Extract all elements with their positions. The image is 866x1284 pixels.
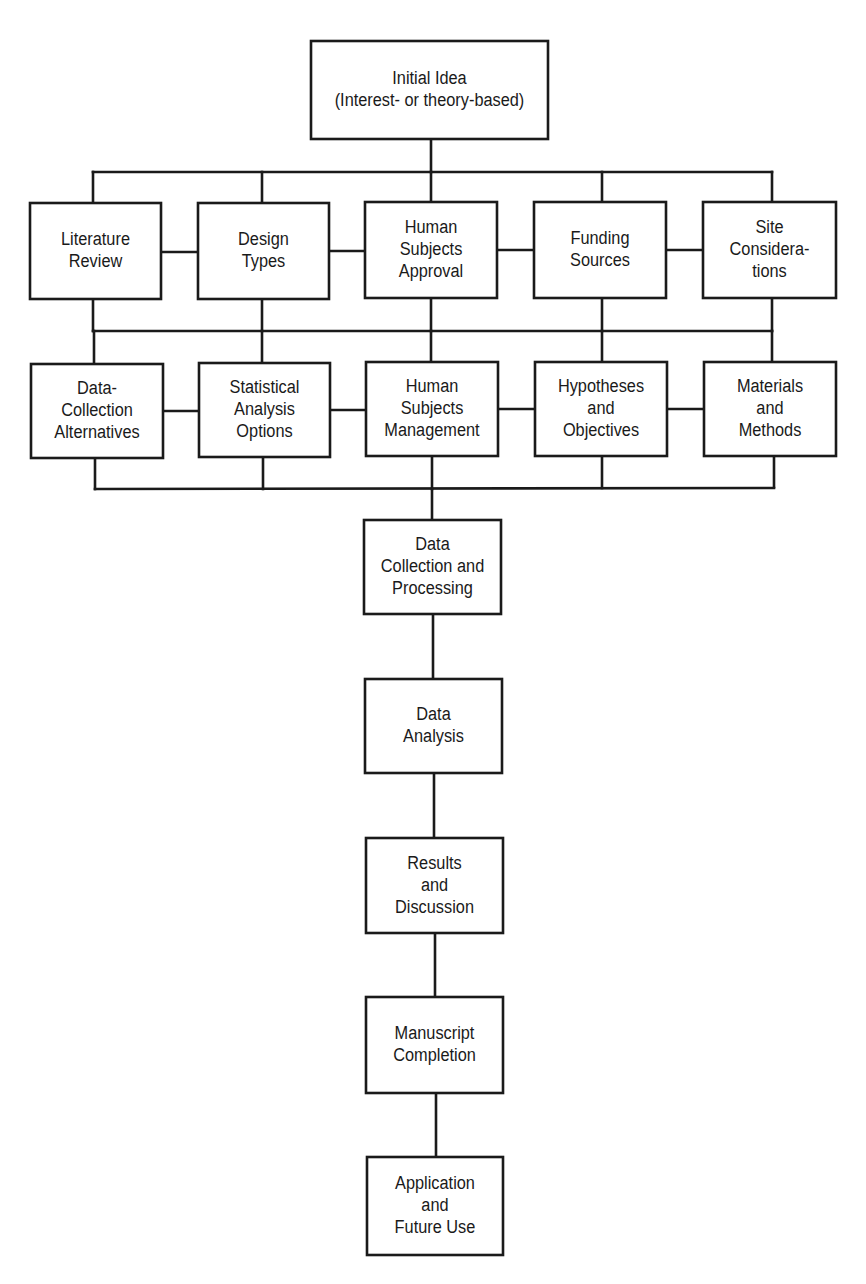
node-design-types: DesignTypes	[198, 203, 329, 299]
node-label-line: and	[587, 397, 614, 418]
node-label-line: Subjects	[400, 238, 463, 259]
node-label-line: Literature	[61, 228, 130, 249]
node-label-line: Considera-	[730, 238, 810, 259]
node-label-line: Hypotheses	[558, 375, 644, 396]
node-data-collection-alternatives: Data-CollectionAlternatives	[31, 364, 163, 458]
node-label-line: Manuscript	[395, 1022, 475, 1043]
node-data-collection-and-processing: DataCollection andProcessing	[364, 520, 501, 614]
node-label-line: Processing	[392, 577, 473, 598]
connector-bus-bottom	[95, 488, 774, 489]
node-label-line: Approval	[399, 260, 463, 281]
node-label-line: Subjects	[401, 397, 464, 418]
node-application-and-future-use: ApplicationandFuture Use	[367, 1157, 503, 1255]
node-label-line: Collection and	[381, 555, 484, 576]
node-label-line: and	[421, 874, 448, 895]
research-process-flowchart: Initial Idea(Interest- or theory-based)L…	[0, 0, 866, 1284]
node-label-line: Results	[407, 852, 462, 873]
node-label-line: Data-	[77, 377, 117, 398]
node-label-line: Initial Idea	[392, 67, 467, 88]
node-label-line: Methods	[739, 419, 802, 440]
node-label-line: Options	[236, 420, 292, 441]
node-materials-and-methods: MaterialsandMethods	[704, 362, 836, 456]
node-human-subjects-approval: HumanSubjectsApproval	[365, 202, 497, 298]
node-label-line: Data	[415, 533, 450, 554]
node-label-line: Collection	[61, 399, 133, 420]
node-label-line: Discussion	[395, 896, 474, 917]
node-literature-review: LiteratureReview	[30, 203, 161, 299]
node-human-subjects-management: HumanSubjectsManagement	[366, 362, 498, 456]
node-label-line: Human	[406, 375, 459, 396]
node-label-line: Types	[242, 250, 286, 271]
node-label-line: Analysis	[234, 398, 295, 419]
node-results-and-discussion: ResultsandDiscussion	[366, 838, 503, 933]
node-label-line: tions	[752, 260, 787, 281]
node-label-line: and	[756, 397, 783, 418]
node-label-line: Completion	[393, 1044, 476, 1065]
node-label-line: Funding	[570, 227, 629, 248]
node-label-line: Site	[755, 216, 783, 237]
node-statistical-analysis-options: StatisticalAnalysisOptions	[199, 363, 330, 457]
node-label-line: and	[421, 1194, 448, 1215]
node-label-line: Analysis	[403, 725, 464, 746]
node-funding-sources: FundingSources	[534, 202, 666, 298]
node-label-line: Management	[384, 419, 479, 440]
node-label-line: Sources	[570, 249, 630, 270]
node-label-line: Objectives	[563, 419, 639, 440]
node-label-line: Data	[416, 703, 451, 724]
node-data-analysis: DataAnalysis	[365, 679, 502, 773]
node-label-line: Statistical	[230, 376, 300, 397]
node-initial-idea: Initial Idea(Interest- or theory-based)	[311, 41, 548, 139]
node-label-line: Alternatives	[54, 421, 139, 442]
node-label-line: Design	[238, 228, 289, 249]
node-label-line: (Interest- or theory-based)	[335, 89, 525, 110]
node-hypotheses-and-objectives: HypothesesandObjectives	[535, 362, 667, 456]
node-label-line: Future Use	[395, 1216, 476, 1237]
node-label-line: Materials	[737, 375, 803, 396]
node-manuscript-completion: ManuscriptCompletion	[366, 997, 503, 1093]
node-label-line: Review	[69, 250, 123, 271]
node-label-line: Application	[395, 1172, 475, 1193]
node-site-considerations: SiteConsidera-tions	[703, 202, 836, 298]
node-label-line: Human	[405, 216, 458, 237]
